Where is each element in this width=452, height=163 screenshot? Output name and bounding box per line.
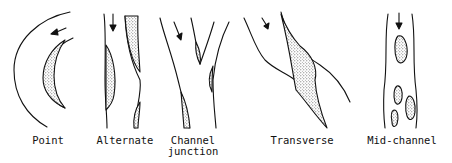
right-bank-bar-deposit (209, 66, 213, 92)
flow-arrow-icon (174, 22, 182, 40)
channel-junction-panel (160, 18, 229, 128)
alternate-bars-panel (104, 14, 140, 128)
flow-arrow-icon (51, 28, 66, 35)
upper-bar-deposit (395, 36, 407, 63)
left-bar-deposit (106, 45, 115, 110)
middle-right-bar-deposit (406, 96, 416, 119)
left-bank-bar-deposit (181, 92, 190, 128)
flow-arrow-icon (262, 18, 269, 29)
point-bar-deposit (43, 40, 65, 108)
middle-left-bar-deposit (394, 86, 402, 104)
junction-bar-deposit (196, 42, 201, 64)
right-bar-deposit-upper (125, 16, 140, 72)
transverse-bar-deposit (281, 14, 327, 128)
label-channel-junction-line2: junction (163, 146, 223, 157)
transverse-bar-panel (244, 12, 350, 128)
flow-arrow-icon (396, 13, 402, 29)
label-point: Point (18, 135, 78, 146)
label-alternate: Alternate (90, 135, 160, 146)
outer-bank-line (14, 12, 70, 127)
right-bar-deposit-lower (134, 102, 140, 128)
label-transverse: Transverse (262, 135, 342, 146)
point-bar-panel (14, 12, 73, 127)
label-mid-channel: Mid-channel (362, 135, 442, 146)
right-bank-line (213, 22, 229, 128)
flow-arrow-icon (110, 14, 116, 31)
lower-left-bar-deposit (391, 110, 398, 126)
mid-channel-bars-panel (384, 13, 418, 128)
left-bank-line (384, 14, 388, 128)
tributary-right-bank (200, 22, 214, 64)
